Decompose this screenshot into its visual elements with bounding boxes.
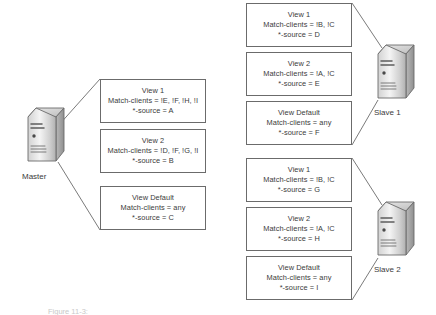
power-led-icon <box>382 228 385 231</box>
figure-caption: Figure 11-3: <box>48 307 88 315</box>
server-slave1 <box>374 42 418 104</box>
match-clients: Match-clients = !A, !C <box>263 69 335 79</box>
view-name: View 2 <box>142 136 164 146</box>
source: *-source = G <box>278 185 320 195</box>
view-name: View 1 <box>142 86 164 96</box>
view-box-master-view-default: View Default Match-clients = any *-sourc… <box>100 186 206 230</box>
view-box-slave1-view1: View 1 Match-clients = !B, !C *-source =… <box>246 3 352 47</box>
server-tower-icon <box>374 199 418 261</box>
server-tower-icon <box>374 42 418 104</box>
source: *-source = F <box>278 128 319 138</box>
view-name: View 2 <box>288 214 310 224</box>
view-box-slave2-view2: View 2 Match-clients = !A, !C *-source =… <box>246 207 352 251</box>
match-clients: Match-clients = any <box>267 273 332 283</box>
source: *-source = I <box>280 283 319 293</box>
view-box-slave2-view1: View 1 Match-clients = !B, !C *-source =… <box>246 158 352 202</box>
view-name: View 1 <box>288 10 310 20</box>
power-led-icon <box>32 134 35 137</box>
view-box-master-view2: View 2 Match-clients = !D, !F, !G, !I *-… <box>100 129 206 173</box>
server-label-slave2: Slave 2 <box>374 265 401 274</box>
match-clients: Match-clients = any <box>121 203 186 213</box>
server-label-slave1: Slave 1 <box>374 108 401 117</box>
connector-slave2-top <box>352 158 382 205</box>
server-master <box>24 105 68 167</box>
match-clients: Match-clients = !D, !F, !G, !I <box>108 146 199 156</box>
view-box-slave1-view2: View 2 Match-clients = !A, !C *-source =… <box>246 52 352 96</box>
connector-slave1-bottom <box>352 100 378 145</box>
view-name: View 1 <box>288 165 310 175</box>
source: *-source = E <box>278 79 319 89</box>
server-slave2 <box>374 199 418 261</box>
source: *-source = C <box>132 213 174 223</box>
source: *-source = B <box>132 156 173 166</box>
view-name: View Default <box>278 108 320 118</box>
connector-master-bottom <box>58 162 100 230</box>
match-clients: Match-clients = !B, !C <box>263 175 335 185</box>
view-name: View Default <box>132 193 174 203</box>
match-clients: Match-clients = !A, !C <box>263 224 335 234</box>
view-name: View 2 <box>288 59 310 69</box>
diagram-canvas: Master View 1 Match-clients = !E, !F, !H… <box>0 0 436 315</box>
view-box-slave2-view-default: View Default Match-clients = any *-sourc… <box>246 256 352 300</box>
view-name: View Default <box>278 263 320 273</box>
view-box-slave1-view-default: View Default Match-clients = any *-sourc… <box>246 101 352 145</box>
source: *-source = H <box>278 234 320 244</box>
match-clients: Match-clients = !E, !F, !H, !I <box>108 96 198 106</box>
power-led-icon <box>382 71 385 74</box>
server-label-master: Master <box>22 172 46 181</box>
server-tower-icon <box>24 105 68 167</box>
view-box-master-view1: View 1 Match-clients = !E, !F, !H, !I *-… <box>100 79 206 123</box>
source: *-source = D <box>278 30 320 40</box>
match-clients: Match-clients = !B, !C <box>263 20 335 30</box>
source: *-source = A <box>132 106 173 116</box>
match-clients: Match-clients = any <box>267 118 332 128</box>
